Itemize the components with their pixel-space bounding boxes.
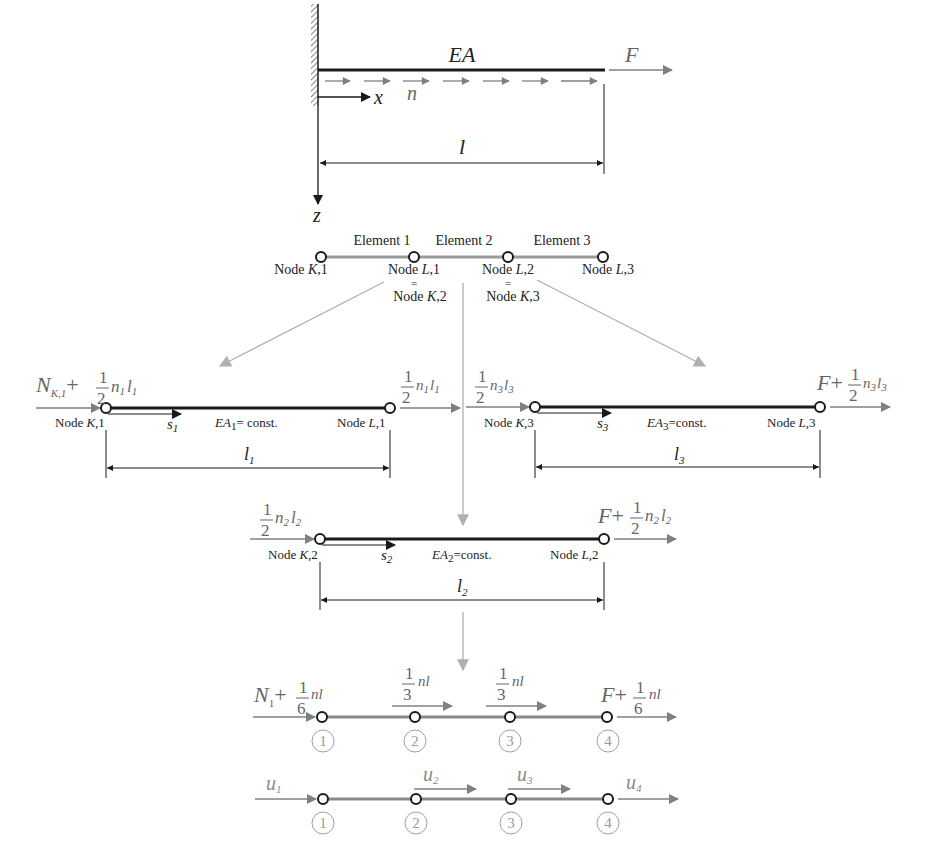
assembled-load-node-2-tail: nl [418,673,430,689]
element-3-right-load-label: F+ [816,370,843,395]
element-3-node-L3-label: Node L,3 [767,415,815,430]
distributed-load-label-n: n [407,82,417,104]
element-strip: Element 1 Element 2 Element 3 Node K,1 N… [274,233,634,304]
strip-node-K1-label: Node K,1 [274,262,328,277]
length-label-l: l [459,134,465,159]
element-3-length-label: l3 [674,444,685,466]
element-2-node-K2-label: Node K,2 [268,547,318,562]
displacement-label-u3: u3 [517,763,533,786]
equal-sign-1: = [411,277,417,289]
node-number-3: 3 [506,733,514,749]
element-2-left-load-frac-den: 2 [261,521,270,540]
strip-node-3 [503,252,513,262]
element-2-left-load-frac-num: 1 [263,500,272,519]
assembled-load-label-node-1: N1+ [253,682,287,709]
element-2-stiffness-label: EA2=const. [431,547,491,564]
assembled-load-node-3-tail: nl [512,673,524,689]
element-1-stiffness-label: EA1= const. [214,415,278,432]
cantilever-bar-group: EA F n x z l [311,4,672,226]
element-3-left-load-tail: n3l3 [490,377,514,395]
assembled-load-node-1-tail: nl [311,686,323,702]
assembled-node-3 [505,712,515,722]
connector-arrows [220,280,705,670]
strip-node-1 [316,252,326,262]
nodal-displacement-system: u1 u2 u3 u4 1 2 3 4 [255,763,678,834]
element-3-free-body: 1 2 n3l3 F+ 1 2 n3l3 Node K,3 s3 EA3=con… [466,365,890,478]
element-1-left-load-frac-num: 1 [99,368,108,387]
strip-node-L2-label: Node L,2 [482,262,534,277]
element-1-right-load-frac-den: 2 [402,388,411,407]
assembled-load-node-2-frac-num: 1 [405,664,414,683]
element-2-node-L2 [599,534,609,544]
displacement-label-u4: u4 [626,771,642,794]
assembled-node-4 [602,712,612,722]
z-axis-label: z [312,204,321,226]
assembled-load-node-3-frac-den: 3 [497,685,506,704]
element-1-length-label: l1 [244,444,255,466]
element-3-stiffness-label: EA3=const. [646,415,706,432]
assembled-load-node-4-frac-den: 6 [634,699,643,718]
strip-node-L1-label: Node L,1 [388,262,440,277]
x-axis-label: x [373,86,383,108]
disp-node-number-3: 3 [507,815,515,831]
element-1-right-load-tail: n1l1 [416,377,440,395]
element-2-right-load-frac-den: 2 [631,519,640,538]
node-number-2: 2 [411,733,419,749]
element-2-right-load-tail: n2l2 [645,506,672,526]
displacement-node-3 [506,794,516,804]
element-3-right-load-frac-num: 1 [851,365,860,384]
element-1-node-L1-label: Node L,1 [337,415,385,430]
element-2-label: Element 2 [435,233,492,248]
displacement-node-4 [603,794,613,804]
element-1-node-K1-label: Node K,1 [55,415,105,430]
connector-arrow-to-element-3 [537,280,705,366]
element-3-label: Element 3 [533,233,590,248]
equal-sign-2: = [505,277,511,289]
element-1-node-L1 [385,403,395,413]
element-3-node-K3 [530,402,540,412]
strip-node-L3-label: Node L,3 [582,262,634,277]
assembled-load-node-1-frac-num: 1 [299,678,308,697]
assembled-load-node-4-tail: nl [649,686,661,702]
element-1-local-axis-label: s1 [167,416,178,434]
assembled-load-node-1-frac-den: 6 [297,699,306,718]
element-3-left-load-frac-num: 1 [478,367,487,386]
fixed-support-wall-icon [311,4,318,106]
strip-node-2 [409,252,419,262]
assembled-load-label-node-4: F+ [600,682,627,707]
strip-node-K3-label: Node K,3 [486,289,540,304]
node-number-1: 1 [319,733,327,749]
assembled-load-node-4-frac-num: 1 [636,678,645,697]
element-2-right-load-frac-num: 1 [633,498,642,517]
displacement-label-u1: u1 [266,772,282,795]
element-3-right-load-tail: n3l3 [863,375,887,393]
assembled-load-node-3-frac-num: 1 [499,664,508,683]
element-2-left-load-tail: n2l2 [275,508,302,528]
element-2-node-L2-label: Node L,2 [550,547,598,562]
displacement-node-1 [318,794,328,804]
displacement-node-2 [411,794,421,804]
assembled-load-node-2-frac-den: 3 [403,685,412,704]
stiffness-label-EA: EA [448,42,476,67]
element-1-left-load-tail: n1l1 [111,377,137,397]
strip-node-4 [598,252,608,262]
disp-node-number-1: 1 [319,815,327,831]
element-2-node-K2 [315,534,325,544]
fem-bar-diagram: EA F n x z l Element 1 Element 2 Element… [0,0,928,868]
disp-node-number-2: 2 [412,815,420,831]
element-2-right-load-label: F+ [597,503,624,528]
element-3-right-load-frac-den: 2 [849,386,858,405]
element-3-local-axis-label: s3 [597,415,609,433]
element-2-length-label: l2 [457,576,468,598]
connector-arrow-to-element-1 [220,282,384,366]
element-1-right-load-frac-num: 1 [404,367,413,386]
element-3-left-load-frac-den: 2 [476,388,485,407]
assembled-node-numbers: 1 2 3 4 [312,730,619,752]
element-2-local-axis-label: s2 [381,547,393,565]
node-number-4: 4 [604,733,612,749]
strip-node-K2-label: Node K,2 [393,289,447,304]
element-1-left-load-label: NK,1+ [35,372,79,399]
displacement-label-u2: u2 [423,763,439,786]
element-1-left-load-frac-den: 2 [97,389,106,408]
assembled-node-2 [410,712,420,722]
